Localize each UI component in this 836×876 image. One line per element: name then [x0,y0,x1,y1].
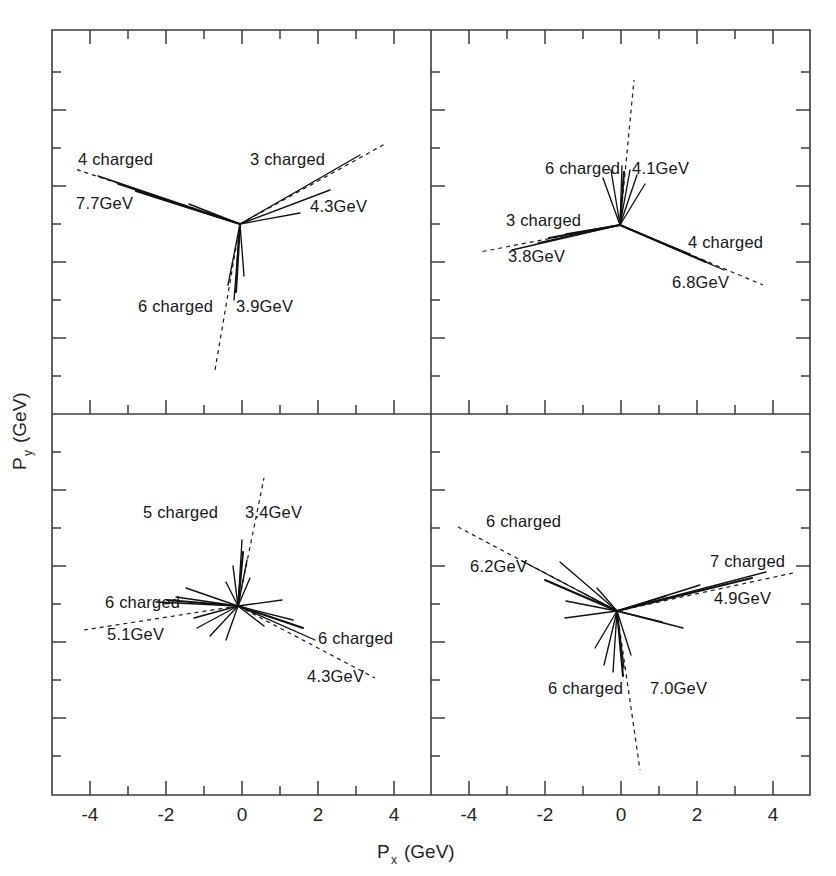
br-jet2-energy: 4.9GeV [714,589,771,607]
br-jet3-multiplicity: 6 charged [548,679,623,697]
br-jet1-energy: 6.2GeV [470,557,527,575]
tl-jet2-energy: 4.3GeV [310,197,367,215]
bl-jet3-multiplicity: 6 charged [318,629,393,647]
xtick-right-two: 2 [692,804,703,825]
bl-jet3-energy: 4.3GeV [307,667,364,685]
xtick-right-minus2: -2 [537,804,554,825]
figure-svg: 4 charged 7.7GeV 3 charged 4.3GeV 6 char… [0,0,836,876]
xtick-right-minus4: -4 [461,804,478,825]
figure-background [0,0,836,876]
bl-jet1-multiplicity: 5 charged [143,503,218,521]
x-axis-title-symbol: P [377,841,390,862]
bl-jet1-energy: 3.4GeV [245,503,302,521]
event-display-figure: 4 charged 7.7GeV 3 charged 4.3GeV 6 char… [0,0,836,876]
y-axis-title-symbol: P [9,457,30,470]
xtick-left-two: 2 [313,804,324,825]
x-axis-title-subscript: x [391,853,397,867]
tl-jet3-energy: 3.9GeV [236,297,293,315]
y-axis-title-unit: (GeV) [9,392,30,443]
tr-jet1-multiplicity: 6 charged [545,159,620,177]
xtick-right-zero: 0 [616,804,627,825]
xtick-left-zero: 0 [237,804,248,825]
tr-jet3-energy: 6.8GeV [672,273,729,291]
tr-jet1-energy: 4.1GeV [632,159,689,177]
xtick-left-minus2: -2 [158,804,175,825]
xtick-left-minus4: -4 [82,804,99,825]
br-jet2-multiplicity: 7 charged [710,552,785,570]
xtick-right-four: 4 [768,804,779,825]
br-jet3-energy: 7.0GeV [650,679,707,697]
y-axis-title-subscript: y [21,450,35,456]
bl-jet2-multiplicity: 6 charged [105,593,180,611]
br-jet1-multiplicity: 6 charged [486,512,561,530]
tr-jet2-energy: 3.8GeV [508,247,565,265]
x-axis-title-unit: (GeV) [404,841,455,862]
tl-jet1-energy: 7.7GeV [76,194,133,212]
tl-jet1-multiplicity: 4 charged [78,150,153,168]
xtick-left-four: 4 [389,804,400,825]
tl-jet2-multiplicity: 3 charged [250,150,325,168]
bl-jet2-energy: 5.1GeV [107,625,164,643]
tr-jet3-multiplicity: 4 charged [688,233,763,251]
tr-jet2-multiplicity: 3 charged [506,211,581,229]
tl-jet3-multiplicity: 6 charged [138,297,213,315]
